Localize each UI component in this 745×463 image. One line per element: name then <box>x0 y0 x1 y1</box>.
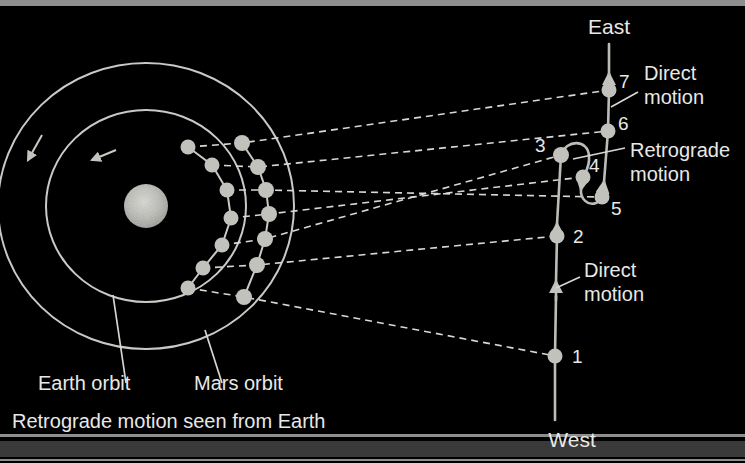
retrograde-motion-label-line2: motion <box>630 163 690 185</box>
sky-dot-1 <box>548 349 563 364</box>
sky-label-5: 5 <box>611 198 622 219</box>
mars-dot-7 <box>236 289 252 305</box>
sightline-4 <box>231 177 583 218</box>
sightline-7 <box>188 90 609 147</box>
sun-group <box>124 184 168 228</box>
earth-position-dots <box>181 140 239 296</box>
east-label: East <box>588 15 630 38</box>
direct-motion-top-label-line2: motion <box>644 86 704 108</box>
sky-dot-2 <box>550 229 565 244</box>
earth-dot-3 <box>220 183 235 198</box>
top-edge-bar <box>0 0 745 6</box>
mars-orbit-label: Mars orbit <box>194 372 283 394</box>
sightlines-group <box>188 90 609 356</box>
earth-dot-2 <box>205 158 220 173</box>
west-label: West <box>548 428 596 451</box>
top-edge-gap <box>0 6 745 8</box>
sky-label-1: 1 <box>572 346 583 367</box>
mars-dot-4 <box>261 206 277 222</box>
mars-dot-5 <box>257 231 273 247</box>
direct-motion-bottom-leader <box>556 277 580 288</box>
sky-dot-6 <box>601 124 616 139</box>
bottom-edge-line-2 <box>0 459 745 461</box>
retrograde-motion-label-line1: Retrograde <box>630 139 730 161</box>
orbit-label-leaders <box>113 295 222 383</box>
sky-label-2: 2 <box>573 226 584 247</box>
mars-dot-3 <box>258 182 274 198</box>
diagram-canvas: East West 1 2 3 4 5 6 7 Direct motion Re… <box>0 0 745 463</box>
sun-disc <box>124 184 168 228</box>
sky-label-3: 3 <box>535 135 546 156</box>
direct-motion-bottom-label-line2: motion <box>584 283 644 305</box>
sky-dot-3 <box>553 147 569 163</box>
mars-dot-1 <box>234 135 250 151</box>
sightline-6 <box>212 131 608 167</box>
earth-orbit-label: Earth orbit <box>38 372 131 394</box>
sky-label-6: 6 <box>618 113 629 134</box>
sky-label-7: 7 <box>619 71 630 92</box>
earth-dot-1 <box>181 140 196 155</box>
bottom-edge-bar <box>0 441 745 457</box>
sky-dot-5 <box>595 190 610 205</box>
earth-orbit-leader <box>113 295 126 383</box>
mars-position-dots <box>234 135 277 305</box>
track-1-to-mid <box>555 296 556 356</box>
mars-dot-6 <box>249 257 265 273</box>
sky-label-4: 4 <box>589 155 600 176</box>
track-5-to-6 <box>604 131 608 182</box>
mars-orbit-direction-arrow <box>28 135 42 160</box>
track-2-to-3 <box>557 155 561 224</box>
direct-motion-top-label-line1: Direct <box>644 62 697 84</box>
figure-caption: Retrograde motion seen from Earth <box>12 410 326 432</box>
bottom-edge-line <box>0 434 745 437</box>
earth-orbit-direction-arrow <box>92 150 116 160</box>
direct-motion-bottom-label-line1: Direct <box>584 259 637 281</box>
earth-dot-6 <box>196 261 211 276</box>
mars-dot-2 <box>250 159 266 175</box>
retrograde-motion-figure: East West 1 2 3 4 5 6 7 Direct motion Re… <box>0 0 745 463</box>
earth-dot-7 <box>181 281 196 296</box>
earth-dot-5 <box>215 238 230 253</box>
earth-dot-4 <box>224 211 239 226</box>
sky-dot-7 <box>602 83 617 98</box>
